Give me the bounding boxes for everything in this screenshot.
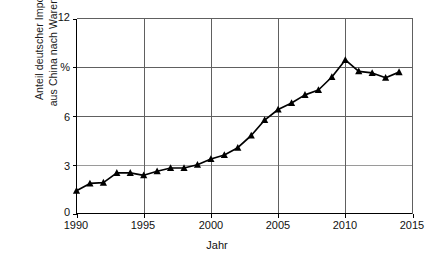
data-point-marker: [342, 56, 349, 63]
plot-area: [0, 0, 434, 263]
chart-container: Anteil deutscher Importe aus China nach …: [0, 0, 434, 263]
x-tick-marks: [73, 20, 414, 218]
data-point-marker: [221, 151, 228, 158]
data-line-series: [77, 60, 400, 191]
gridlines: [77, 19, 413, 214]
data-point-marker: [288, 99, 295, 106]
data-point-marker: [73, 187, 80, 194]
data-point-marker: [395, 68, 402, 75]
